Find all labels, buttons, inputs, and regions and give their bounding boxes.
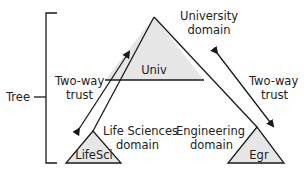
egr-domain-abbr: Egr	[249, 148, 269, 162]
egr-domain-label-line1: Engineering	[176, 124, 245, 138]
trust-left-label-line2: trust	[66, 88, 94, 102]
domain-tree-diagram: Tree Univ University domain LifeSci Life…	[0, 0, 304, 173]
trust-left-label-line1: Two-way	[54, 74, 104, 88]
egr-domain-label-line2: domain	[190, 138, 233, 152]
tree-bracket	[34, 13, 57, 163]
root-domain-abbr: Univ	[141, 63, 167, 77]
tree-label: Tree	[5, 90, 30, 104]
lifesci-domain-label-line2: domain	[116, 138, 159, 152]
trust-right-label-line1: Two-way	[248, 74, 298, 88]
lifesci-domain-label-line1: Life Sciences	[103, 124, 178, 138]
root-domain-label-line2: domain	[187, 23, 230, 37]
lifesci-domain-abbr: LifeSci	[75, 148, 113, 162]
root-domain-label-line1: University	[180, 9, 238, 23]
trust-right-label-line2: trust	[261, 88, 289, 102]
